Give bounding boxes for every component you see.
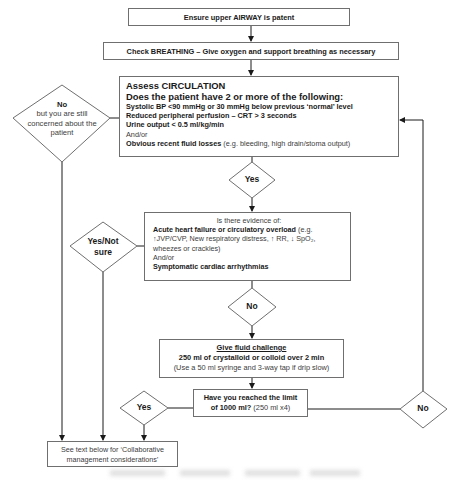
evidence-box: Is there evidence of: Acute heart failur… — [144, 212, 351, 281]
fluid-challenge-dose: 250 ml of crystalloid or colloid over 2 … — [160, 353, 343, 363]
no-concerned-label-rest: but you are still concerned about the pa… — [22, 109, 102, 137]
no-label-1: No — [230, 302, 274, 311]
evidence-heart-failure: Acute heart failure or circulatory overl… — [153, 225, 296, 234]
criterion-urine: Urine output < 0.5 ml/kg/min — [126, 120, 398, 129]
yes-not-sure-label: Yes/Not sure — [80, 236, 126, 258]
criterion-perfusion: Reduced peripheral perfusion – CRT > 3 s… — [126, 111, 398, 120]
airway-box: Ensure upper AIRWAY is patent — [128, 8, 350, 26]
criterion-fluid-loss: Obvious recent fluid losses — [126, 139, 221, 148]
evidence-arrhythmias: Symptomatic cardiac arrhythmias — [153, 262, 345, 271]
limit-detail: (250 ml x4) — [251, 403, 290, 412]
no-concerned-label: No but you are still concerned about the… — [22, 100, 102, 138]
fluid-challenge-box: Give fluid challenge 250 ml of crystallo… — [159, 339, 344, 378]
yes-label-1: Yes — [230, 175, 274, 184]
circulation-box: Assess CIRCULATION Does the patient have… — [119, 76, 399, 157]
breathing-text: Check BREATHING – Give oxygen and suppor… — [127, 47, 376, 56]
fluid-challenge-title: Give fluid challenge — [160, 343, 343, 353]
criterion-bp: Systolic BP <90 mmHg or 30 mmHg below pr… — [126, 102, 398, 111]
see-text-box: See text below for ‘Collaborative manage… — [47, 441, 178, 467]
obscured-caption — [110, 470, 360, 476]
limit-box: Have you reached the limit of 1000 ml? (… — [193, 389, 308, 417]
criterion-fluid-loss-detail: (e.g. bleeding, high drain/stoma output) — [221, 139, 350, 148]
fluid-challenge-note: (Use a 50 ml syringe and 3-way tap if dr… — [160, 363, 343, 373]
circulation-andor: And/or — [126, 130, 398, 139]
breathing-box: Check BREATHING – Give oxygen and suppor… — [103, 42, 399, 60]
circulation-question: Does the patient have 2 or more of the f… — [126, 91, 398, 102]
yes-label-2: Yes — [122, 403, 166, 412]
no-concerned-label-bold: No — [22, 100, 102, 109]
airway-text: Ensure upper AIRWAY is patent — [184, 13, 294, 22]
see-text: See text below for ‘Collaborative manage… — [61, 445, 164, 464]
evidence-intro: Is there evidence of: — [153, 216, 345, 225]
circulation-title: Assess CIRCULATION — [126, 80, 398, 91]
no-label-2: No — [401, 404, 445, 413]
evidence-andor: And/or — [153, 253, 345, 262]
